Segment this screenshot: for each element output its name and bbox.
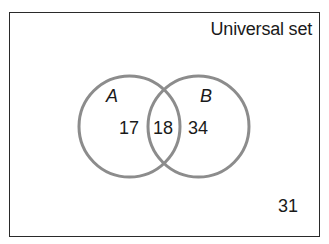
intersection-count: 18 bbox=[153, 119, 173, 137]
set-b-only-count: 34 bbox=[188, 119, 208, 137]
set-a-only-count: 17 bbox=[119, 119, 139, 137]
set-a-label: A bbox=[106, 87, 118, 105]
universal-set-label: Universal set bbox=[211, 20, 312, 38]
outside-count: 31 bbox=[278, 197, 298, 215]
set-b-label: B bbox=[200, 87, 212, 105]
